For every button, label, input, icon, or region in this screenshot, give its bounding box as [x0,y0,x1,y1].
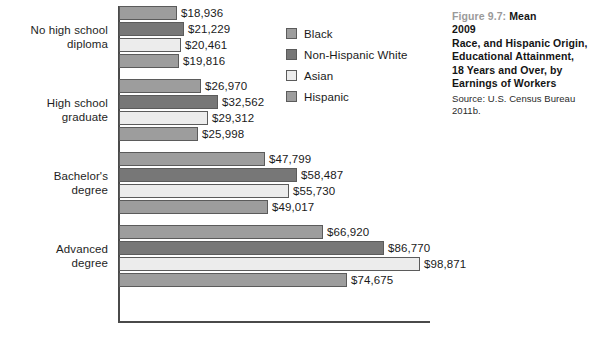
bar[interactable] [119,273,347,287]
bar-value-label: $32,562 [218,96,264,108]
legend-item[interactable]: Hispanic [286,90,407,103]
bar-value-label: $86,770 [384,242,430,254]
bar-value-label: $74,675 [347,274,393,286]
bar-value-label: $98,871 [420,258,466,270]
legend-swatch-icon [286,49,297,60]
bar[interactable] [119,95,218,109]
bar-row: $18,936 [119,6,440,20]
legend-item-label: Hispanic [304,91,349,103]
category-label-line: Advanced [0,243,108,257]
legend-swatch-icon [286,70,297,81]
bar-value-label: $25,998 [198,128,244,140]
bar-group: Bachelor'sdegree$47,799$58,487$55,730$49… [0,152,440,214]
bar[interactable] [119,127,198,141]
category-label-line: No high school [0,24,108,38]
bar-value-label: $26,970 [201,80,247,92]
bar[interactable] [119,6,177,20]
category-label-line: degree [0,183,108,197]
caption-title-line: 18 Years and Over, by [452,64,604,77]
legend-item[interactable]: Asian [286,69,407,82]
bar-value-label: $29,312 [208,112,254,124]
bar-value-label: $20,461 [181,39,227,51]
bar-stack: $47,799$58,487$55,730$49,017 [119,152,440,214]
bar-row: $25,998 [119,127,440,141]
bar[interactable] [119,241,384,255]
bar-value-label: $66,920 [323,226,369,238]
category-label: Bachelor'sdegree [0,170,108,197]
bar-value-label: $18,936 [177,7,223,19]
bar[interactable] [119,79,201,93]
bar[interactable] [119,152,265,166]
bar-row: $47,799 [119,152,440,166]
figure-caption: Figure 9.7: Mean 2009Race, and Hispanic … [452,10,604,117]
bar[interactable] [119,168,297,182]
bar-row: $86,770 [119,241,440,255]
figure-container: No high schooldiploma$18,936$21,229$20,4… [0,0,615,344]
caption-title-line: Earnings of Workers [452,77,604,90]
category-label: No high schooldiploma [0,24,108,51]
bar[interactable] [119,200,268,214]
legend-item-label: Non-Hispanic White [304,49,407,61]
bar-value-label: $47,799 [265,153,311,165]
legend-item-label: Black [304,28,333,40]
chart-legend: BlackNon-Hispanic WhiteAsianHispanic [286,27,407,103]
category-label-line: graduate [0,110,108,124]
category-label: High schoolgraduate [0,97,108,124]
bar[interactable] [119,38,181,52]
bar-stack: $66,920$86,770$98,871$74,675 [119,225,440,287]
bar-value-label: $19,816 [179,55,225,67]
category-label-line: Bachelor's [0,170,108,184]
bar[interactable] [119,257,420,271]
bar-value-label: $55,730 [289,185,335,197]
bar[interactable] [119,184,289,198]
bar[interactable] [119,111,208,125]
caption-title-line: Race, and Hispanic Origin, [452,37,604,50]
bar-row: $55,730 [119,184,440,198]
legend-swatch-icon [286,28,297,39]
caption-source: Source: U.S. Census Bureau 2011b. [452,93,604,117]
category-label-line: degree [0,256,108,270]
bar-row: $58,487 [119,168,440,182]
bar-row: $66,920 [119,225,440,239]
category-label-line: High school [0,97,108,111]
bar-value-label: $49,017 [268,201,314,213]
category-axis-line [118,321,430,323]
bar-value-label: $58,487 [297,169,343,181]
legend-item[interactable]: Black [286,27,407,40]
bar[interactable] [119,54,179,68]
caption-title-line: Educational Attainment, [452,50,604,63]
bar[interactable] [119,225,323,239]
caption-title-text: Mean [509,10,536,22]
bar[interactable] [119,22,184,36]
legend-item[interactable]: Non-Hispanic White [286,48,407,61]
figure-number: Figure 9.7: [452,10,506,22]
bar-row: $49,017 [119,200,440,214]
bar-row: $29,312 [119,111,440,125]
bar-group: Advanceddegree$66,920$86,770$98,871$74,6… [0,225,440,287]
bar-row: $74,675 [119,273,440,287]
category-label-line: diploma [0,37,108,51]
bar-row: $98,871 [119,257,440,271]
legend-item-label: Asian [304,70,333,82]
legend-swatch-icon [286,91,297,102]
category-label: Advanceddegree [0,243,108,270]
caption-title-line: 2009 [452,23,604,36]
caption-title: Figure 9.7: Mean [452,10,604,23]
bar-value-label: $21,229 [184,23,230,35]
